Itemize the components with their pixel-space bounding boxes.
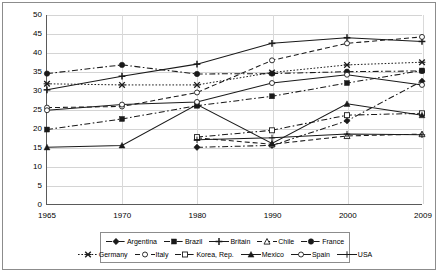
data-point-x-star — [344, 62, 351, 68]
legend-swatch-filled-square — [164, 237, 184, 246]
x-axis-tick-label: 1990 — [264, 212, 282, 220]
data-point-plus — [119, 73, 126, 80]
legend-swatch-filled-circle — [301, 237, 321, 246]
legend-label: Mexico — [262, 251, 284, 258]
series-line — [47, 65, 422, 74]
y-axis-tick-label: 15 — [33, 144, 42, 152]
y-axis-tick-label: 25 — [33, 106, 42, 114]
data-point-filled-circle — [119, 62, 124, 67]
data-point-open-square — [270, 128, 275, 133]
legend-item-britain[interactable]: Britain — [209, 237, 250, 246]
data-point-open-circle-2 — [420, 82, 425, 87]
legend-swatch-open-triangle — [257, 237, 277, 246]
plot-inner: 05101520253035404550 1965197019801990200… — [47, 15, 422, 204]
series-mexico — [44, 101, 425, 150]
legend-item-germany[interactable]: Germany — [78, 250, 128, 259]
legend-swatch-filled-triangle — [241, 250, 261, 259]
data-point-filled-triangle — [269, 141, 275, 147]
legend-label: France — [322, 238, 344, 245]
data-point-filled-diamond — [194, 144, 200, 150]
data-point-filled-square — [345, 81, 350, 86]
y-axis-tick-label: 10 — [33, 163, 42, 171]
data-point-filled-circle — [194, 71, 199, 76]
legend-item-france[interactable]: France — [301, 237, 344, 246]
legend-item-spain[interactable]: Spain — [291, 250, 330, 259]
series-line — [47, 37, 422, 108]
data-point-light-plus — [269, 135, 275, 141]
data-point-filled-circle — [309, 239, 314, 244]
data-point-plus — [44, 86, 51, 93]
legend-label: Germany — [99, 251, 128, 258]
data-point-open-circle — [142, 252, 147, 257]
series-line — [197, 134, 422, 140]
data-point-filled-circle — [419, 68, 424, 73]
vertical-gridline — [423, 15, 424, 204]
legend-label: Italy — [156, 251, 169, 258]
legend-item-mexico[interactable]: Mexico — [241, 250, 284, 259]
legend-label: Argentina — [127, 238, 157, 245]
y-axis-tick-label: 20 — [33, 125, 42, 133]
data-point-light-plus — [344, 251, 350, 257]
legend-label: Chile — [278, 238, 294, 245]
x-axis-tick-label: 1970 — [113, 212, 131, 220]
data-point-open-circle-2 — [120, 102, 125, 107]
plot-area: 05101520253035404550 1965197019801990200… — [46, 15, 422, 205]
legend-swatch-open-square — [175, 250, 195, 259]
x-axis-tick-label: 1965 — [38, 212, 56, 220]
y-axis-tick-label: 5 — [38, 182, 42, 190]
data-point-filled-square — [120, 116, 125, 121]
y-axis-tick-label: 40 — [33, 49, 42, 57]
legend-item-brazil[interactable]: Brazil — [164, 237, 203, 246]
data-point-filled-diamond — [344, 118, 350, 124]
data-point-open-circle — [195, 90, 200, 95]
data-point-x-star — [44, 81, 51, 87]
chart-screenshot: 05101520253035404550 1965197019801990200… — [0, 0, 439, 273]
data-point-open-circle-2 — [270, 81, 275, 86]
data-point-open-circle — [345, 41, 350, 46]
x-axis-tick-label: 2009 — [414, 212, 432, 220]
x-axis-tick-label: 1980 — [188, 212, 206, 220]
x-axis-tick-label: 2000 — [339, 212, 357, 220]
data-point-x-star — [84, 252, 91, 258]
data-point-filled-diamond — [113, 238, 119, 244]
data-point-open-circle-2 — [298, 252, 303, 257]
legend-row-2: GermanyItalyKorea, Rep.MexicoSpainUSA — [104, 248, 346, 261]
y-axis-tick-label: 0 — [38, 201, 42, 209]
legend-label: Korea, Rep. — [196, 251, 233, 258]
y-axis-tick-label: 45 — [33, 30, 42, 38]
data-point-filled-square — [45, 127, 50, 132]
data-point-filled-square — [171, 239, 176, 244]
series-layer — [47, 15, 422, 204]
y-axis-tick-label: 35 — [33, 68, 42, 76]
data-point-plus — [269, 40, 276, 47]
legend-item-italy[interactable]: Italy — [135, 250, 169, 259]
legend-swatch-x-star — [78, 250, 98, 259]
data-point-x-star — [419, 59, 426, 65]
data-point-open-circle-2 — [195, 99, 200, 104]
data-point-open-square — [345, 113, 350, 118]
legend-label: USA — [358, 251, 372, 258]
data-point-open-circle-2 — [345, 72, 350, 77]
data-point-open-circle — [270, 58, 275, 63]
legend-item-argentina[interactable]: Argentina — [106, 237, 157, 246]
legend-swatch-open-circle-2 — [291, 250, 311, 259]
data-point-open-circle-2 — [45, 108, 50, 113]
data-point-plus — [344, 34, 351, 41]
data-point-plus — [216, 238, 223, 245]
legend-swatch-plus — [209, 237, 229, 246]
legend-item-korea-rep[interactable]: Korea, Rep. — [175, 250, 233, 259]
chart-frame: 05101520253035404550 1965197019801990200… — [2, 2, 436, 270]
legend-item-chile[interactable]: Chile — [257, 237, 294, 246]
series-france — [44, 62, 424, 76]
data-point-x-star — [119, 82, 126, 88]
legend-swatch-open-circle — [135, 250, 155, 259]
legend-label: Britain — [230, 238, 250, 245]
data-point-x-star — [194, 82, 201, 88]
y-axis-tick-label: 30 — [33, 87, 42, 95]
legend-item-usa[interactable]: USA — [337, 250, 372, 259]
legend-label: Brazil — [185, 238, 203, 245]
series-line — [47, 104, 422, 147]
data-point-open-square — [183, 252, 188, 257]
legend-swatch-light-plus — [337, 250, 357, 259]
legend-row-1: ArgentinaBrazilBritainChileFrance — [104, 235, 346, 248]
